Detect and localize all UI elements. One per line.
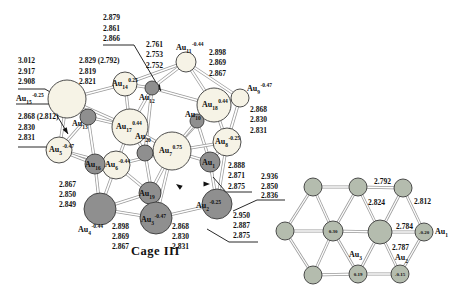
bond-length-label-m-14: 2.821 (79, 77, 96, 86)
atom-label-Au4: Au4-0.44 (78, 223, 103, 236)
bond-length-label-m-11-right: 2.869 (209, 58, 226, 67)
planar-atom-1 (349, 178, 367, 196)
planar-atom-label-Au3: Au3 (349, 250, 362, 261)
planar-atom-label-Au2: Au2 (395, 253, 408, 264)
bond-length-label-m-4: 2.869 (112, 232, 129, 241)
bond-length-label-m-top: 2.866 (103, 34, 120, 43)
planar-atom-2 (394, 179, 412, 197)
bond-length-label-m-15-bottom: 2.830 (18, 123, 35, 132)
atom-Au4 (84, 193, 116, 225)
planar-atom-7 (304, 266, 322, 284)
bond-length-label-m-8: 2.871 (228, 171, 245, 180)
planar-charge-6: -0.20 (419, 230, 430, 235)
figure-canvas: Au15-0.25Au140.25Au11-0.44Au9-0.47Au180.… (0, 0, 461, 299)
figure-caption: Cage III (131, 244, 180, 259)
bond-length-label-m-8: 2.875 (228, 182, 245, 191)
planar-atom-5 (368, 220, 392, 244)
bond-length-label-m-3: 2.830 (172, 232, 189, 241)
bond-length-label-m-8-right: 2.936 (261, 172, 278, 181)
bond-length-label-m-4: 2.898 (112, 222, 129, 231)
planar-bond-length-label: 2.824 (368, 198, 385, 207)
bond-length-label-m-15-bottom: 2.831 (18, 133, 35, 142)
bond-length-label-m-11-left: 2.753 (146, 50, 163, 59)
bond-length-label-m-2: 2.875 (233, 231, 250, 240)
bond-length-label-m-11-right: 2.898 (209, 48, 226, 57)
planar-atom-label-Au1: Au1 (435, 227, 448, 238)
atom-label-Au15: Au15-0.25 (16, 92, 44, 105)
planar-charge-8: 0.19 (354, 272, 363, 277)
atom-Au11 (176, 52, 196, 72)
bond-length-label-m-15-top: 2.917 (18, 67, 35, 76)
bond-length-label-m-15-top: 2.908 (18, 77, 35, 86)
pointer-arrow-icon (176, 184, 183, 190)
bond-length-label-m-8: 2.888 (228, 161, 245, 170)
bond-length-label-m-11-left: 2.761 (146, 40, 163, 49)
bond-length-label-m-8-right: 2.850 (261, 182, 278, 191)
bond-length-label-m-2: 2.950 (233, 211, 250, 220)
bond-length-label-m-4-left: 2.850 (59, 190, 76, 199)
pointer-arrow-icon (204, 182, 211, 187)
bond-length-label-m-11-left: 2.752 (146, 61, 163, 70)
bond-length-label-m-4-left: 2.867 (59, 180, 76, 189)
bond-length-label-m-4: 2.867 (112, 242, 129, 251)
bond-length-label-m-9: 2.868 (250, 105, 267, 114)
bond-length-label-m-8-right: 2.836 (261, 191, 278, 200)
bond-length-label-m-9: 2.831 (250, 126, 267, 135)
bond-length-label-m-3: 2.868 (172, 222, 189, 231)
planar-charge-9: -0.15 (395, 272, 406, 277)
bond-length-label-m-14: 2.819 (79, 67, 96, 76)
bond-length-label-m-9: 2.830 (250, 115, 267, 124)
bond-length-label-m-15-top: 3.012 (18, 56, 35, 65)
planar-atom-0 (304, 178, 322, 196)
bond-length-label-m-11-right: 2.867 (209, 69, 226, 78)
bond-length-label-m-top: 2.879 (103, 13, 120, 22)
molecular-structure-figure: Au15-0.25Au140.25Au11-0.44Au9-0.47Au180.… (0, 0, 461, 299)
bond-length-label-m-15-bottom: 2.868 (2.812) (18, 112, 59, 121)
atom-label-Au11: Au11-0.44 (176, 41, 204, 54)
bond-length-label-m-2: 2.887 (233, 221, 250, 230)
bond-length-label-m-14: 2.829 (2.792) (79, 56, 120, 65)
leader-line (233, 200, 285, 211)
planar-atom-3 (276, 222, 294, 240)
planar-bond-length-label: 2.784 (396, 222, 413, 231)
planar-charge-4: 0.30 (329, 229, 338, 234)
planar-bond-length-label: 2.787 (392, 243, 409, 252)
atom-Au20 (137, 145, 153, 161)
planar-bond-length-label: 2.812 (414, 197, 431, 206)
bond-length-label-m-4-left: 2.849 (59, 200, 76, 209)
bond-length-label-m-top: 2.861 (103, 24, 120, 33)
planar-bond-length-label: 2.792 (374, 177, 391, 186)
atom-label-Au9: Au9-0.47 (247, 82, 272, 95)
